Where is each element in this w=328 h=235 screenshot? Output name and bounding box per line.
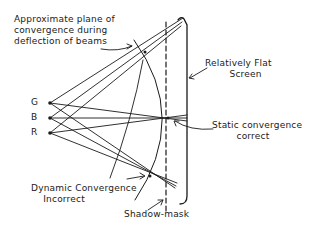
gun-label-b: B [31, 112, 37, 123]
gun-b-dot [48, 116, 52, 120]
gun-label-g: G [31, 97, 38, 108]
gun-g-dot [48, 101, 52, 105]
convergence-bottom-dot [149, 175, 152, 178]
shadow-mask-label: Shadow-mask [124, 209, 189, 220]
plane-label: Approximate plane of convergence during … [14, 14, 115, 47]
convergence-middle-dot [167, 117, 170, 120]
gun-r-dot [48, 131, 52, 135]
static-convergence-label: Static convergence correct [212, 120, 302, 142]
dynamic-convergence-label: Dynamic Convergence Incorrect [31, 183, 137, 205]
static-leader-arrow [175, 121, 213, 129]
screen-outline [178, 18, 187, 204]
vertical-leader [110, 60, 143, 178]
convergence-top-dot [144, 51, 147, 54]
screen-label: Relatively Flat Screen [205, 58, 272, 80]
gun-label-r: R [31, 127, 37, 138]
